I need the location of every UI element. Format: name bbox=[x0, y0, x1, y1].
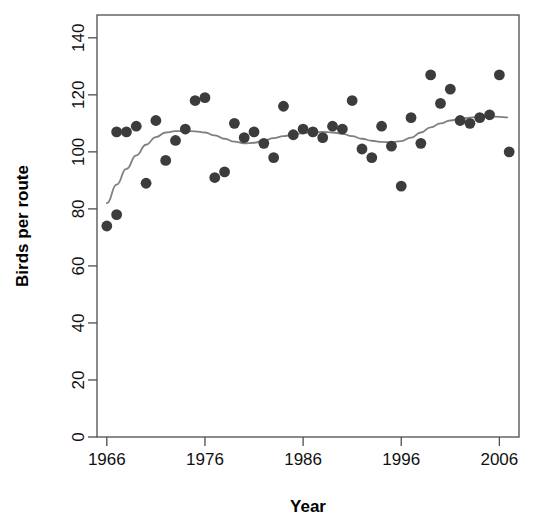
y-tick-label: 120 bbox=[69, 81, 88, 109]
data-point bbox=[494, 69, 505, 80]
data-point bbox=[327, 121, 338, 132]
y-axis: 020406080100120140 bbox=[69, 24, 97, 442]
y-tick-label: 60 bbox=[69, 256, 88, 275]
y-tick-label: 40 bbox=[69, 313, 88, 332]
data-point bbox=[180, 124, 191, 135]
data-point bbox=[101, 221, 112, 232]
data-point bbox=[121, 127, 132, 138]
x-tick-label: 2006 bbox=[480, 450, 518, 469]
data-point bbox=[366, 152, 377, 163]
data-point bbox=[131, 121, 142, 132]
x-axis: 19661976198619962006 bbox=[88, 437, 518, 469]
data-point bbox=[150, 115, 161, 126]
data-points-group bbox=[101, 69, 514, 231]
plot-frame bbox=[97, 15, 519, 437]
y-tick-label: 80 bbox=[69, 199, 88, 218]
data-point bbox=[239, 132, 250, 143]
data-point bbox=[141, 178, 152, 189]
x-tick-label: 1986 bbox=[284, 450, 322, 469]
data-point bbox=[229, 118, 240, 129]
data-point bbox=[504, 146, 515, 157]
data-point bbox=[278, 101, 289, 112]
data-point bbox=[111, 209, 122, 220]
data-point bbox=[170, 135, 181, 146]
data-point bbox=[219, 166, 230, 177]
x-tick-label: 1966 bbox=[88, 450, 126, 469]
data-point bbox=[160, 155, 171, 166]
y-tick-label: 100 bbox=[69, 138, 88, 166]
data-point bbox=[396, 181, 407, 192]
data-point bbox=[209, 172, 220, 183]
scatter-plot-canvas: 020406080100120140 19661976198619962006 … bbox=[0, 0, 541, 527]
data-point bbox=[474, 112, 485, 123]
data-point bbox=[288, 129, 299, 140]
data-point bbox=[406, 112, 417, 123]
data-point bbox=[190, 95, 201, 106]
chart-figure: 020406080100120140 19661976198619962006 … bbox=[0, 0, 541, 527]
data-point bbox=[445, 84, 456, 95]
data-point bbox=[200, 92, 211, 103]
data-point bbox=[435, 98, 446, 109]
data-point bbox=[268, 152, 279, 163]
data-point bbox=[357, 144, 368, 155]
data-point bbox=[298, 124, 309, 135]
x-axis-title: Year bbox=[290, 497, 326, 516]
x-tick-label: 1996 bbox=[382, 450, 420, 469]
data-point bbox=[425, 69, 436, 80]
x-tick-label: 1976 bbox=[186, 450, 224, 469]
data-point bbox=[317, 132, 328, 143]
data-point bbox=[308, 127, 319, 138]
y-tick-label: 0 bbox=[69, 432, 88, 441]
y-tick-label: 20 bbox=[69, 371, 88, 390]
data-point bbox=[337, 124, 348, 135]
data-point bbox=[386, 141, 397, 152]
data-point bbox=[455, 115, 466, 126]
y-tick-label: 140 bbox=[69, 24, 88, 52]
data-point bbox=[111, 127, 122, 138]
data-point bbox=[484, 109, 495, 120]
data-point bbox=[376, 121, 387, 132]
data-point bbox=[347, 95, 358, 106]
data-point bbox=[258, 138, 269, 149]
data-point bbox=[249, 127, 260, 138]
data-point bbox=[465, 118, 476, 129]
y-axis-title: Birds per route bbox=[13, 165, 32, 287]
data-point bbox=[415, 138, 426, 149]
